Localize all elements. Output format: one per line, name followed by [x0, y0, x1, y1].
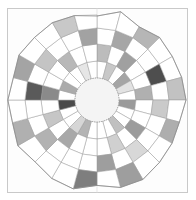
heatmap-cell	[74, 15, 97, 31]
polar-heatmap-figure	[7, 8, 188, 193]
corner-scan-artifact	[174, 0, 192, 7]
heatmap-cell	[8, 100, 28, 123]
page-canvas	[0, 0, 196, 200]
center-hub	[75, 78, 119, 122]
heatmap-cell	[167, 77, 186, 100]
